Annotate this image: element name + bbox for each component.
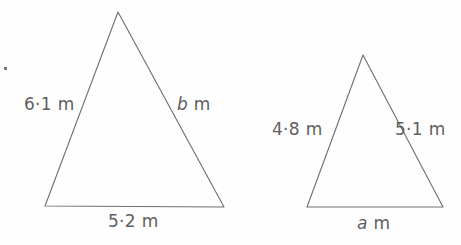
large-triangle-right-side-label: b m	[177, 96, 211, 113]
large-triangle-base-label: 5·2 m	[108, 213, 159, 230]
small-triangle-base-label: a m	[357, 215, 390, 232]
large-triangle-left-side-label: 6·1 m	[24, 96, 75, 113]
margin-bullet-dot	[4, 67, 7, 70]
small-triangle-left-side-label: 4·8 m	[272, 121, 323, 138]
triangles-canvas	[0, 0, 461, 245]
triangles-figure: 6·1 m b m 5·2 m 4·8 m 5·1 m a m	[0, 0, 461, 245]
small-triangle-base-unit-text: m	[373, 213, 390, 233]
large-triangle-right-side-variable: b	[177, 94, 188, 114]
small-triangle-right-side-label: 5·1 m	[395, 121, 446, 138]
large-triangle-right-side-unit-text: m	[194, 94, 211, 114]
small-triangle-base-variable: a	[357, 213, 368, 233]
